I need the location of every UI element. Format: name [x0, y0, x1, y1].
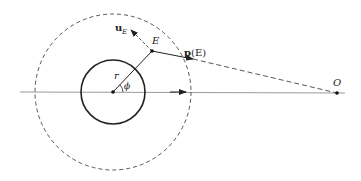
point-o — [335, 91, 339, 95]
label-u-subscript: E — [121, 28, 127, 36]
label-p: p — [184, 47, 191, 58]
line-of-sight — [193, 59, 337, 93]
radius-line — [113, 51, 152, 92]
label-phi: ϕ — [124, 81, 130, 91]
point-e — [150, 49, 154, 53]
center-point — [111, 90, 115, 94]
u-e-vector — [131, 30, 152, 51]
diagram-canvas: u E E p (E) r ϕ O — [0, 0, 361, 181]
label-o: O — [333, 77, 341, 88]
phi-angle-arc — [120, 85, 123, 92]
label-e: E — [151, 35, 160, 46]
label-r: r — [114, 70, 120, 81]
label-p-arg: (E) — [191, 47, 206, 58]
